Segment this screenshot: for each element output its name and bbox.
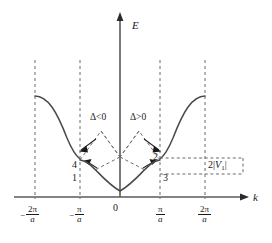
band-gap-guides xyxy=(160,158,243,174)
point-label-4: 4 xyxy=(72,160,77,170)
band-structure-figure: E k 0 −2πa −πa πa 2πa Δ<0 Δ>0 4 1 2 3 2|… xyxy=(0,0,272,243)
point-label-1: 1 xyxy=(72,173,77,183)
xtick-pos-pi-a-fraction: πa xyxy=(156,205,165,225)
point-label-3: 3 xyxy=(163,173,168,183)
xtick-pos-pi-a-denominator: a xyxy=(156,215,165,225)
dashed-seg-right-falling xyxy=(120,131,139,157)
dashed-seg-left-rising xyxy=(80,131,101,160)
delta-negative-label: Δ<0 xyxy=(90,113,106,123)
upper-band-right-curve xyxy=(160,96,205,159)
dashed-seg-left-falling xyxy=(101,131,120,157)
point-label-2: 2 xyxy=(153,152,158,162)
wavevector-axis-label: k xyxy=(253,192,258,203)
xtick-pos-2pi-a-denominator: a xyxy=(198,215,211,225)
xtick-pos-2pi-a-fraction: 2πa xyxy=(198,205,211,225)
upper-band-left-curve xyxy=(35,96,80,159)
xtick-neg-2pi-a-denominator: a xyxy=(26,215,39,225)
energy-axis-label: E xyxy=(132,20,139,31)
xtick-neg-pi-a-denominator: a xyxy=(75,215,84,225)
wavevector-axis-arrowhead xyxy=(240,194,249,201)
dashed-seg-to-point-1-a xyxy=(95,157,120,170)
origin-label: 0 xyxy=(113,203,118,213)
axes-group xyxy=(14,12,249,200)
band-gap-prefix: 2| xyxy=(208,159,215,170)
xtick-pos-2pi-a: 2πa xyxy=(197,205,211,225)
xtick-pos-pi-a: πa xyxy=(155,205,165,225)
delta-positive-label: Δ>0 xyxy=(130,113,146,123)
xtick-neg-2pi-a: −2πa xyxy=(20,205,39,225)
xtick-neg-2pi-a-fraction: 2πa xyxy=(26,205,39,225)
xtick-neg-pi-a: −πa xyxy=(69,205,84,225)
dashed-seg-cross-right xyxy=(120,131,139,157)
band-gap-suffix: | xyxy=(225,159,227,170)
energy-axis-arrowhead xyxy=(117,12,124,21)
dashed-seg-to-point-3-a xyxy=(120,157,145,170)
xtick-neg-pi-a-fraction: πa xyxy=(75,205,84,225)
arrowhead-point-4 xyxy=(80,146,89,153)
band-gap-label: 2|V1| xyxy=(208,160,227,172)
dashed-seg-cross-left xyxy=(101,131,120,157)
